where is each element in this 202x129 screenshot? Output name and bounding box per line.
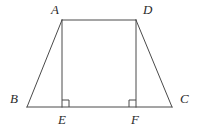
vertex-label-A: A [51, 3, 59, 16]
right-angle-at-E-icon [62, 100, 69, 107]
segment-DC [136, 20, 172, 107]
vertex-label-E: E [58, 113, 66, 126]
segment-AB [27, 20, 62, 107]
geometry-figure: A D B C E F [0, 0, 202, 129]
right-angle-at-F-icon [129, 100, 136, 107]
vertex-label-F: F [131, 113, 139, 126]
vertex-label-C: C [180, 92, 189, 105]
geometry-canvas [0, 0, 202, 129]
vertex-label-D: D [143, 3, 152, 16]
vertex-label-B: B [10, 92, 18, 105]
